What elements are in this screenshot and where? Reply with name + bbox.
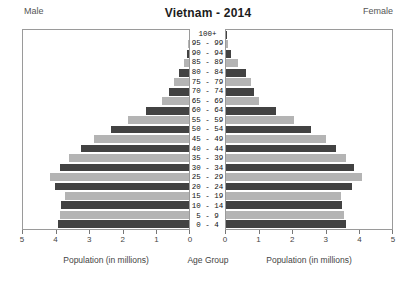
axis-tick-label: 5	[391, 235, 395, 244]
bar-female-35-39	[226, 154, 346, 162]
female-axis-title: Population (in millions)	[225, 255, 393, 265]
male-x-axis: 543210	[22, 230, 190, 250]
age-group-label: 25 - 29	[190, 173, 225, 183]
axis-tick-label: 5	[20, 235, 24, 244]
bar-row	[226, 201, 392, 210]
axis-tick-label: 2	[290, 235, 294, 244]
bar-female-90-94	[226, 50, 231, 58]
age-group-label: 70 - 74	[190, 86, 225, 96]
axis-tick-label: 1	[154, 235, 158, 244]
chart-title: Vietnam - 2014	[0, 6, 416, 20]
bar-female-50-54	[226, 126, 311, 134]
bar-row	[226, 144, 392, 153]
bar-male-95-99	[188, 40, 189, 48]
center-axis-title: Age Group	[190, 255, 225, 265]
bar-female-15-19	[226, 192, 341, 200]
age-group-label: 60 - 64	[190, 105, 225, 115]
bar-row	[226, 30, 392, 39]
bar-male-70-74	[169, 88, 189, 96]
axis-tick	[225, 230, 226, 234]
age-group-label: 0 - 4	[190, 220, 225, 230]
bar-male-50-54	[111, 126, 189, 134]
bar-row	[23, 144, 189, 153]
bar-male-65-69	[162, 97, 189, 105]
axis-tick-label: 3	[87, 235, 91, 244]
bar-male-40-44	[81, 145, 189, 153]
bar-male-20-24	[55, 183, 189, 191]
age-group-label: 65 - 69	[190, 96, 225, 106]
bar-row	[23, 153, 189, 162]
bar-row	[226, 153, 392, 162]
bar-female-45-49	[226, 135, 326, 143]
bar-female-55-59	[226, 116, 294, 124]
bar-male-25-29	[50, 173, 189, 181]
female-plot-panel	[225, 29, 393, 230]
axis-tick	[189, 230, 190, 234]
bar-row	[23, 220, 189, 229]
bar-male-80-84	[179, 69, 189, 77]
bar-row	[23, 125, 189, 134]
bar-female-85-89	[226, 59, 238, 67]
bar-row	[23, 96, 189, 105]
bar-female-75-79	[226, 78, 251, 86]
age-group-label: 50 - 54	[190, 125, 225, 135]
bar-row	[23, 210, 189, 219]
axis-tick	[56, 230, 57, 234]
axis-tick-label: 0	[188, 235, 192, 244]
bar-row	[23, 182, 189, 191]
bar-row	[23, 59, 189, 68]
bar-row	[23, 106, 189, 115]
bar-row	[23, 201, 189, 210]
age-group-label: 20 - 24	[190, 182, 225, 192]
bar-row	[226, 182, 392, 191]
bar-male-15-19	[65, 192, 190, 200]
age-group-label: 80 - 84	[190, 67, 225, 77]
axis-tick	[156, 230, 157, 234]
bar-row	[226, 59, 392, 68]
age-group-label-column: 0 - 45 - 910 - 1415 - 1920 - 2425 - 2930…	[190, 29, 225, 230]
axis-tick	[123, 230, 124, 234]
axis-tick-label: 2	[121, 235, 125, 244]
bar-female-65-69	[226, 97, 259, 105]
bar-row	[226, 191, 392, 200]
age-group-label: 40 - 44	[190, 144, 225, 154]
bar-female-10-14	[226, 201, 342, 209]
bar-row	[226, 115, 392, 124]
male-plot-panel	[22, 29, 190, 230]
bar-row	[23, 49, 189, 58]
bar-row	[23, 40, 189, 49]
bar-row	[226, 68, 392, 77]
axis-tick-label: 4	[357, 235, 361, 244]
age-group-label: 90 - 94	[190, 48, 225, 58]
age-group-label: 100+	[190, 29, 225, 39]
axis-tick-label: 0	[223, 235, 227, 244]
bar-female-30-34	[226, 164, 354, 172]
axis-tick	[292, 230, 293, 234]
bar-row	[23, 30, 189, 39]
bar-row	[226, 96, 392, 105]
bar-male-75-79	[174, 78, 189, 86]
bar-row	[23, 78, 189, 87]
axis-tick	[89, 230, 90, 234]
axis-tick	[259, 230, 260, 234]
axis-tick-label: 1	[256, 235, 260, 244]
age-group-label: 45 - 49	[190, 134, 225, 144]
chart-header: Male Vietnam - 2014 Female	[0, 6, 416, 24]
axis-tick-label: 3	[324, 235, 328, 244]
bar-row	[23, 68, 189, 77]
age-group-label: 85 - 89	[190, 58, 225, 68]
bar-male-85-89	[184, 59, 189, 67]
bar-row	[23, 87, 189, 96]
bar-female-60-64	[226, 107, 276, 115]
bar-male-45-49	[94, 135, 189, 143]
bar-row	[226, 220, 392, 229]
age-group-label: 30 - 34	[190, 163, 225, 173]
bar-row	[226, 210, 392, 219]
axis-tick	[326, 230, 327, 234]
age-group-label: 15 - 19	[190, 192, 225, 202]
bar-row	[226, 87, 392, 96]
bar-row	[226, 78, 392, 87]
bar-female-95-99	[226, 40, 228, 48]
bar-male-0-4	[58, 220, 189, 228]
age-group-label: 35 - 39	[190, 153, 225, 163]
